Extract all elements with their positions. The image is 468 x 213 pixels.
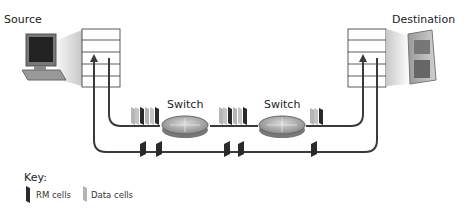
destination-protocol-stack [348,29,386,87]
abr-congestion-diagram [0,0,468,213]
rm-cells-label: RM cells [36,190,71,200]
switch-2-icon [259,116,305,138]
forward-cells-group-3 [310,108,323,125]
source-label: Source [4,13,42,26]
forward-cells-group-2 [219,107,247,125]
forward-cells-group-1 [131,107,159,125]
switch-1-label: Switch [167,98,203,111]
source-protocol-stack [82,29,120,87]
switch-2-label: Switch [264,98,300,111]
key-title: Key: [24,171,47,184]
destination-label: Destination [392,13,455,26]
data-cell-key-icon [83,186,87,202]
backward-rm-cells [140,141,317,157]
switch-1-icon [162,116,208,138]
tower-server-icon [386,29,436,86]
backward-path [90,54,377,152]
desktop-computer-icon [22,30,82,86]
rm-cell-key-icon [26,186,30,203]
data-cells-label: Data cells [91,190,133,200]
